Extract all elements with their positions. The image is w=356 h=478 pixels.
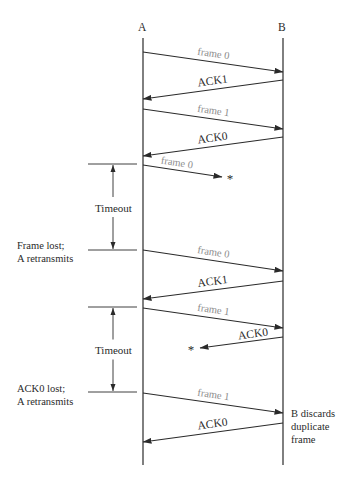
frame-arrow: frame 0 [143, 46, 283, 72]
arrow-up-icon [111, 165, 116, 172]
ack-lost-line1: ACK0 lost; [17, 382, 73, 395]
ack-arrow: ACK0 [143, 130, 283, 156]
messages-layer: frame 0ACK1frame 1ACK0frame 0*frame 0ACK… [143, 46, 283, 442]
arrow-down-icon [111, 242, 116, 249]
station-a-label: A [138, 21, 146, 34]
lost-frame-arrow: frame 0* [143, 155, 233, 186]
station-b-label: B [278, 21, 286, 34]
stop-and-wait-diagram: frame 0ACK1frame 1ACK0frame 0*frame 0ACK… [0, 0, 356, 478]
b-discards-line2: duplicate [291, 420, 335, 433]
ack-arrow: ACK1 [143, 73, 283, 99]
frame-lost-line1: Frame lost; [17, 239, 73, 252]
timeout-label-1: Timeout [95, 201, 132, 216]
b-discards-line1: B discards [291, 407, 335, 420]
frame-label: frame 0 [197, 244, 231, 260]
ack-lost-annotation: ACK0 lost; A retransmits [17, 382, 73, 408]
frame-label: frame 1 [197, 387, 231, 402]
frame-arrow: frame 1 [143, 387, 283, 413]
ack-label: ACK0 [197, 130, 229, 146]
ack-arrow: ACK1 [143, 273, 283, 299]
ack-label: ACK1 [197, 73, 229, 89]
frame-arrow: frame 1 [143, 302, 283, 328]
ack-lost-line2: A retransmits [17, 395, 73, 408]
frame-arrow: frame 1 [143, 103, 283, 129]
loss-asterisk-icon: * [227, 171, 234, 186]
ack-label: ACK0 [197, 416, 229, 432]
frame-label: frame 1 [197, 103, 231, 118]
arrow-up-icon [111, 308, 116, 315]
lost-ack-arrow: ACK0* [188, 326, 283, 357]
ack-arrow: ACK0 [143, 416, 283, 442]
frame-arrow: frame 0 [143, 244, 283, 271]
arrow-down-icon [111, 384, 116, 391]
b-discards-annotation: B discards duplicate frame [291, 407, 335, 446]
frame-lost-line2: A retransmits [17, 252, 73, 265]
ack-label: ACK1 [197, 273, 229, 289]
loss-asterisk-icon: * [188, 342, 195, 357]
timeout-label-2: Timeout [95, 343, 132, 358]
frame-label: frame 1 [197, 302, 231, 317]
frame-label: frame 0 [197, 46, 231, 61]
b-discards-line3: frame [291, 433, 335, 446]
frame-lost-annotation: Frame lost; A retransmits [17, 239, 73, 265]
